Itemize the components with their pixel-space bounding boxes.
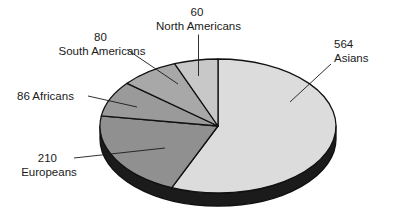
label-europeans: 210 Europeans (21, 152, 77, 178)
label-europeans-name: Europeans (21, 166, 77, 178)
pie-slices (100, 59, 336, 193)
label-africans-value-name: 86 Africans (17, 90, 74, 102)
label-europeans-value: 210 (38, 152, 57, 164)
label-south-americans-value: 80 (94, 31, 107, 43)
pie-chart-canvas: 60 North Americans 80 South Americans 86… (0, 0, 393, 218)
label-north-americans-name: North Americans (156, 20, 241, 32)
label-south-americans: 80 South Americans (59, 31, 146, 57)
pie-chart-figure: 60 North Americans 80 South Americans 86… (0, 0, 393, 218)
label-asians-value: 564 (334, 38, 354, 50)
label-africans: 86 Africans (17, 90, 74, 102)
label-north-americans: 60 North Americans (156, 6, 241, 32)
label-asians: 564 Asians (334, 38, 369, 64)
label-north-americans-value: 60 (191, 6, 204, 18)
label-south-americans-name: South Americans (59, 45, 146, 57)
label-asians-name: Asians (334, 52, 369, 64)
